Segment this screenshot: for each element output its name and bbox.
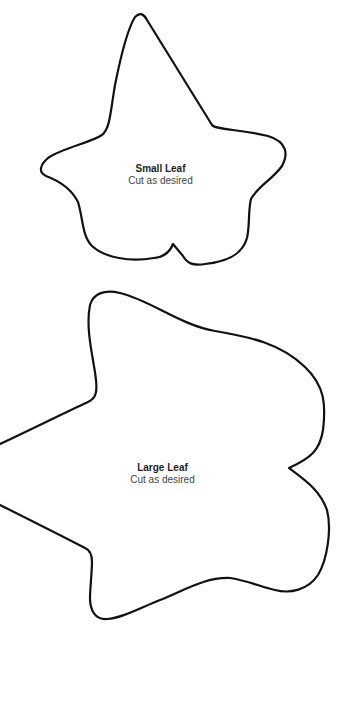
large-leaf-outline (0, 292, 329, 619)
large-leaf-instruction: Cut as desired (105, 474, 220, 486)
small-leaf-title: Small Leaf (103, 163, 218, 175)
small-leaf-instruction: Cut as desired (103, 175, 218, 187)
small-leaf-label: Small Leaf Cut as desired (103, 163, 218, 187)
large-leaf-label: Large Leaf Cut as desired (105, 462, 220, 486)
leaf-outlines (0, 0, 347, 706)
large-leaf-title: Large Leaf (105, 462, 220, 474)
small-leaf-outline (41, 14, 286, 264)
template-page: Small Leaf Cut as desired Large Leaf Cut… (0, 0, 347, 706)
